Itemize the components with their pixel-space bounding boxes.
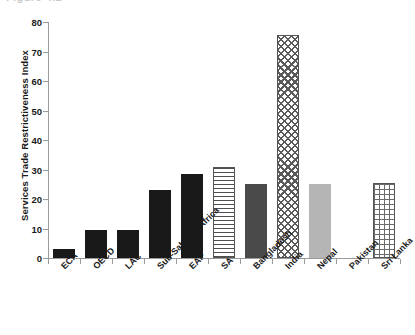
y-tick-label: 50: [16, 105, 42, 116]
bar-bangladesh: [245, 184, 267, 258]
plot-area: [48, 22, 400, 258]
y-tick-mark: [43, 140, 48, 141]
y-tick-mark: [43, 81, 48, 82]
y-tick-mark: [43, 170, 48, 171]
y-tick-label: 20: [16, 194, 42, 205]
bar-india: [277, 35, 299, 258]
y-tick-mark: [43, 111, 48, 112]
y-tick-label: 60: [16, 76, 42, 87]
y-tick-mark: [43, 22, 48, 23]
y-tick-label: 10: [16, 223, 42, 234]
y-tick-mark: [43, 52, 48, 53]
y-tick-mark: [43, 199, 48, 200]
x-axis-category-labels: ECAOECDLACSub-Saharan AfricaEAPSABanglad…: [48, 264, 400, 335]
y-tick-label: 70: [16, 46, 42, 57]
bar-sub-saharan-africa: [149, 190, 171, 258]
y-tick-mark: [43, 229, 48, 230]
y-tick-label: 30: [16, 164, 42, 175]
y-axis-tick-labels: 01020304050607080: [14, 22, 42, 258]
y-tick-label: 80: [16, 17, 42, 28]
y-tick-label: 40: [16, 135, 42, 146]
bar-nepal: [309, 184, 331, 258]
x-tick-mark: [400, 259, 401, 264]
y-tick-label: 0: [16, 253, 42, 264]
